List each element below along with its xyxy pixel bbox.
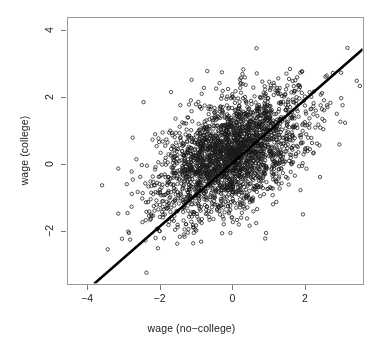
y-tick-label: 2: [43, 94, 55, 100]
x-tick-label: −4: [81, 292, 93, 304]
y-axis-label: wage (college): [18, 17, 32, 284]
x-tick-label: 0: [229, 292, 235, 304]
y-tick-label: −2: [43, 225, 55, 237]
x-axis-label: wage (no−college): [0, 322, 383, 334]
scatter-plot-canvas: [0, 0, 383, 349]
x-tick-label: 2: [302, 292, 308, 304]
y-tick-label: 4: [43, 27, 55, 33]
x-tick-label: −2: [154, 292, 166, 304]
y-tick-label: 0: [43, 161, 55, 167]
scatter-plot-figure: wage (no−college) wage (college) −4−202 …: [0, 0, 383, 349]
